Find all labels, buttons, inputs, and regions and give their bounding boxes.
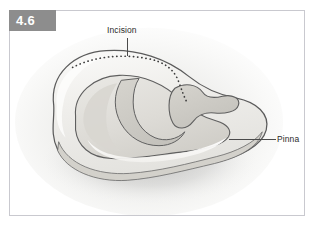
figure-number-text: 4.6 bbox=[16, 13, 35, 28]
figure-panel bbox=[9, 10, 305, 216]
ear-anatomy-illustration bbox=[10, 11, 304, 215]
figure-number-tab: 4.6 bbox=[9, 10, 56, 31]
callout-label-pinna: Pinna bbox=[277, 134, 299, 144]
pinna-leader-line bbox=[229, 139, 276, 140]
incision-leader-line bbox=[127, 38, 128, 56]
page-surface: 4.6 Incision Pinna bbox=[0, 0, 315, 234]
callout-label-incision: Incision bbox=[107, 25, 137, 35]
